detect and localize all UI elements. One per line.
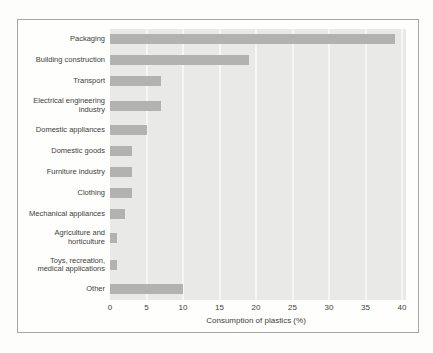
bar-track (110, 161, 406, 182)
bar (110, 260, 117, 270)
bar-row: Building construction (18, 50, 406, 71)
x-axis-title: Consumption of plastics (%) (110, 316, 402, 325)
bar (110, 146, 132, 156)
bar-track (110, 71, 406, 92)
bar (110, 188, 132, 198)
category-label: Furniture industry (18, 161, 110, 182)
bar (110, 34, 395, 44)
chart-figure: PackagingBuilding constructionTransportE… (17, 19, 419, 333)
bar-track (110, 252, 406, 279)
category-label: Domestic goods (18, 140, 110, 161)
bar-track (110, 119, 406, 140)
bar-row: Electrical engineering industry (18, 92, 406, 119)
bar-track (110, 224, 406, 251)
category-label: Building construction (18, 50, 110, 71)
category-label: Agriculture and horticulture (18, 224, 110, 251)
x-tick-label: 40 (398, 303, 407, 312)
bar (110, 101, 161, 111)
x-tick-label: 15 (215, 303, 224, 312)
x-tick-label: 5 (144, 303, 148, 312)
bar-row: Agriculture and horticulture (18, 224, 406, 251)
bar-row: Domestic goods (18, 140, 406, 161)
category-label: Toys, recreation, medical applications (18, 252, 110, 279)
bar (110, 125, 147, 135)
x-axis-ticks: 0510152025303540 (110, 303, 406, 315)
category-label: Other (18, 279, 110, 300)
bar-track (110, 29, 406, 50)
x-tick-label: 25 (288, 303, 297, 312)
bar-track (110, 279, 406, 300)
bar (110, 233, 117, 243)
x-tick-label: 30 (325, 303, 334, 312)
bar-row: Domestic appliances (18, 119, 406, 140)
category-label: Packaging (18, 29, 110, 50)
bar-track (110, 182, 406, 203)
bar-track (110, 203, 406, 224)
bar-row: Mechanical appliances (18, 203, 406, 224)
bar (110, 167, 132, 177)
x-tick-label: 10 (179, 303, 188, 312)
bar-rows: PackagingBuilding constructionTransportE… (18, 29, 406, 300)
bar-row: Packaging (18, 29, 406, 50)
bar (110, 209, 125, 219)
bar-row: Other (18, 279, 406, 300)
category-label: Domestic appliances (18, 119, 110, 140)
x-tick-label: 0 (108, 303, 112, 312)
bar-row: Clothing (18, 182, 406, 203)
bar-row: Transport (18, 71, 406, 92)
category-label: Mechanical appliances (18, 203, 110, 224)
category-label: Clothing (18, 182, 110, 203)
bar (110, 284, 183, 294)
category-label: Electrical engineering industry (18, 92, 110, 119)
bar (110, 55, 249, 65)
bar-track (110, 140, 406, 161)
bar-track (110, 92, 406, 119)
x-tick-label: 20 (252, 303, 261, 312)
category-label: Transport (18, 71, 110, 92)
bar (110, 76, 161, 86)
bar-row: Furniture industry (18, 161, 406, 182)
x-tick-label: 35 (361, 303, 370, 312)
bar-row: Toys, recreation, medical applications (18, 252, 406, 279)
bar-track (110, 50, 406, 71)
